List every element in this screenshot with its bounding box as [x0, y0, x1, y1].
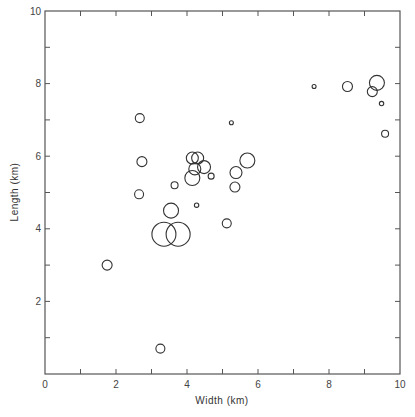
data-point-circle	[230, 182, 240, 192]
axis-tick-labels: 0246810246810	[30, 6, 406, 391]
data-points	[102, 75, 388, 353]
y-tick-label: 10	[30, 6, 42, 17]
data-point-circle	[152, 222, 176, 246]
data-point-circle	[102, 260, 112, 270]
y-tick-label: 2	[35, 296, 41, 307]
data-point-circle	[156, 344, 165, 353]
data-point-circle	[342, 82, 352, 92]
x-axis-label: Width (km)	[195, 395, 248, 406]
data-point-circle	[171, 182, 178, 189]
data-point-circle	[135, 114, 144, 123]
data-point-circle	[369, 75, 384, 90]
x-tick-label: 8	[326, 379, 332, 390]
data-point-circle	[222, 219, 231, 228]
data-point-circle	[379, 101, 383, 105]
axis-ticks	[45, 11, 400, 374]
y-tick-label: 4	[35, 223, 41, 234]
x-tick-label: 10	[394, 379, 406, 390]
data-point-circle	[230, 167, 242, 179]
data-point-circle	[137, 157, 147, 167]
x-tick-label: 4	[184, 379, 190, 390]
data-point-circle	[164, 203, 179, 218]
data-point-circle	[229, 121, 233, 125]
data-point-circle	[194, 203, 198, 207]
data-point-circle	[240, 153, 255, 168]
data-point-circle	[312, 85, 316, 89]
x-tick-label: 6	[255, 379, 261, 390]
plot-frame	[45, 11, 400, 374]
data-point-circle	[189, 163, 201, 175]
data-point-circle	[135, 190, 144, 199]
data-point-circle	[186, 152, 198, 164]
x-tick-label: 2	[113, 379, 119, 390]
data-point-circle	[185, 170, 200, 185]
data-point-circle	[208, 173, 214, 179]
scatter-chart: 0246810246810 Width (km) Length (km)	[0, 0, 415, 417]
y-tick-label: 6	[35, 151, 41, 162]
x-tick-label: 0	[42, 379, 48, 390]
data-point-circle	[192, 152, 204, 164]
data-point-circle	[166, 222, 190, 246]
data-point-circle	[198, 161, 211, 174]
data-point-circle	[382, 130, 389, 137]
y-tick-label: 8	[35, 78, 41, 89]
y-axis-label: Length (km)	[9, 163, 20, 222]
